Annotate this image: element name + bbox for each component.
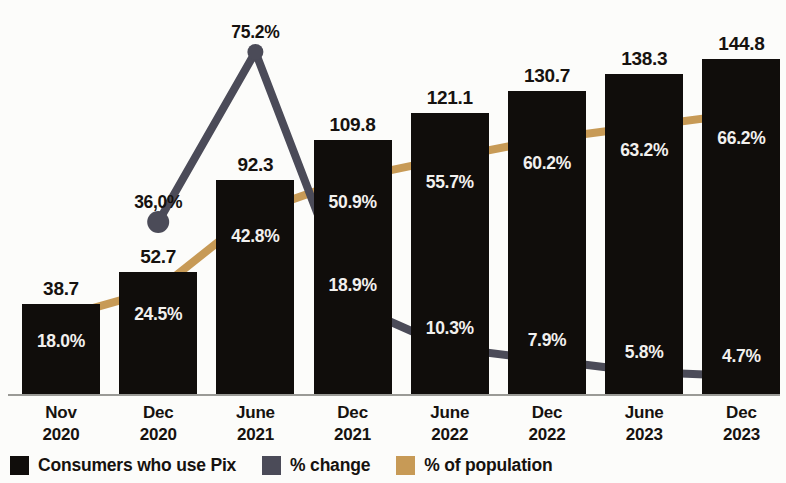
x-tick-dec-2021: Dec2021 xyxy=(303,402,403,446)
x-tick-month: Dec xyxy=(691,402,786,424)
x-tick-year: 2022 xyxy=(400,424,500,446)
pix-adoption-chart: 38.752.792.3109.8121.1130.7138.3144.818.… xyxy=(0,0,786,483)
bar-dec-2021 xyxy=(314,140,392,394)
bar-june-2022 xyxy=(411,113,489,394)
legend-label: % of population xyxy=(424,455,552,476)
change-value-label: 10.3% xyxy=(397,318,503,339)
bar-dec-2023 xyxy=(702,59,780,394)
x-tick-month: Dec xyxy=(108,402,208,424)
x-tick-month: June xyxy=(400,402,500,424)
legend-swatch-icon xyxy=(10,456,29,475)
chart-legend: Consumers who use Pix% change% of popula… xyxy=(10,452,578,478)
x-tick-june-2023: June2023 xyxy=(594,402,694,446)
change-value-label: 5.8% xyxy=(591,342,697,363)
x-tick-year: 2022 xyxy=(497,424,597,446)
legend-item-1[interactable]: Consumers who use Pix xyxy=(10,455,236,476)
bar-value-label: 121.1 xyxy=(399,87,501,109)
bar-value-label: 138.3 xyxy=(593,48,695,70)
x-tick-dec-2022: Dec2022 xyxy=(497,402,597,446)
bar-value-label: 109.8 xyxy=(302,114,404,136)
legend-item-3[interactable]: % of population xyxy=(396,455,552,476)
x-tick-month: Nov xyxy=(11,402,111,424)
bar-value-label: 38.7 xyxy=(10,278,112,300)
population-value-label: 60.2% xyxy=(498,153,596,174)
population-value-label: 66.2% xyxy=(692,128,786,149)
x-tick-month: June xyxy=(594,402,694,424)
bar-value-label: 144.8 xyxy=(690,33,786,55)
x-tick-year: 2023 xyxy=(691,424,786,446)
x-tick-month: Dec xyxy=(497,402,597,424)
x-tick-year: 2021 xyxy=(205,424,305,446)
x-axis-line xyxy=(8,394,780,396)
bar-value-label: 52.7 xyxy=(107,246,209,268)
x-tick-year: 2020 xyxy=(11,424,111,446)
x-tick-june-2022: June2022 xyxy=(400,402,500,446)
x-tick-june-2021: June2021 xyxy=(205,402,305,446)
population-value-label: 24.5% xyxy=(109,304,207,325)
x-tick-month: Dec xyxy=(303,402,403,424)
x-tick-dec-2020: Dec2020 xyxy=(108,402,208,446)
change-value-label: 36,0% xyxy=(105,192,211,213)
x-tick-month: June xyxy=(205,402,305,424)
bar-dec-2020 xyxy=(119,272,197,394)
population-value-label: 63.2% xyxy=(595,140,693,161)
x-tick-year: 2020 xyxy=(108,424,208,446)
population-value-label: 42.8% xyxy=(206,226,304,247)
change-value-label: 75.2% xyxy=(202,22,308,43)
population-value-label: 50.9% xyxy=(304,192,402,213)
x-axis-labels: Nov2020Dec2020June2021Dec2021June2022Dec… xyxy=(0,398,786,446)
legend-label: % change xyxy=(290,455,370,476)
change-value-label: 4.7% xyxy=(688,346,786,367)
plot-area: 38.752.792.3109.8121.1130.7138.3144.818.… xyxy=(0,0,786,396)
bar-value-label: 130.7 xyxy=(496,65,598,87)
x-tick-nov-2020: Nov2020 xyxy=(11,402,111,446)
legend-swatch-icon xyxy=(396,456,415,475)
change-value-label: 18.9% xyxy=(300,275,406,296)
legend-item-2[interactable]: % change xyxy=(262,455,370,476)
x-tick-year: 2021 xyxy=(303,424,403,446)
bar-june-2021 xyxy=(216,180,294,394)
change-marker xyxy=(147,211,169,233)
change-marker xyxy=(247,44,263,60)
change-value-label: 7.9% xyxy=(494,330,600,351)
bar-value-label: 92.3 xyxy=(204,154,306,176)
x-tick-year: 2023 xyxy=(594,424,694,446)
legend-swatch-icon xyxy=(262,456,281,475)
population-value-label: 55.7% xyxy=(401,172,499,193)
x-tick-dec-2023: Dec2023 xyxy=(691,402,786,446)
legend-label: Consumers who use Pix xyxy=(38,455,236,476)
population-value-label: 18.0% xyxy=(12,331,110,352)
